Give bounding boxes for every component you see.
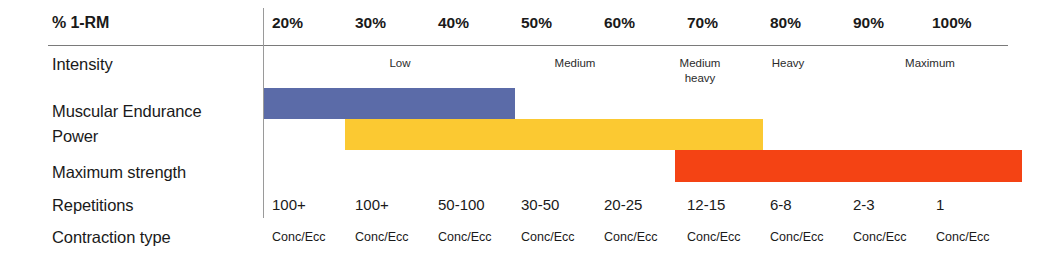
contraction-30: Conc/Ecc	[355, 230, 409, 244]
reps-60: 20-25	[604, 196, 642, 213]
intensity-medium: Medium	[525, 56, 625, 71]
reps-30: 100+	[355, 196, 389, 213]
header-row-label: % 1-RM	[52, 14, 109, 32]
bar-power	[345, 119, 763, 150]
contraction-40: Conc/Ecc	[438, 230, 492, 244]
row-label-muscular-endurance: Muscular Endurance	[52, 102, 202, 121]
tick-70: 70%	[687, 14, 718, 32]
reps-50: 30-50	[521, 196, 559, 213]
tick-90: 90%	[853, 14, 884, 32]
contraction-80: Conc/Ecc	[770, 230, 824, 244]
reps-80: 6-8	[770, 196, 792, 213]
tick-40: 40%	[438, 14, 469, 32]
contraction-100: Conc/Ecc	[936, 230, 990, 244]
row-label-power: Power	[52, 127, 98, 146]
contraction-60: Conc/Ecc	[604, 230, 658, 244]
intensity-heavy: Heavy	[748, 56, 828, 71]
training-intensity-chart: % 1-RM 20% 30% 40% 50% 60% 70% 80% 90% 1…	[0, 0, 1048, 263]
row-label-repetitions: Repetitions	[52, 196, 133, 215]
bar-maximum-strength	[675, 150, 1022, 182]
tick-30: 30%	[355, 14, 386, 32]
reps-70: 12-15	[687, 196, 725, 213]
reps-100: 1	[936, 196, 944, 213]
header-divider	[48, 45, 1008, 46]
reps-40: 50-100	[438, 196, 485, 213]
contraction-50: Conc/Ecc	[521, 230, 575, 244]
contraction-20: Conc/Ecc	[272, 230, 326, 244]
row-label-contraction-type: Contraction type	[52, 228, 171, 247]
tick-80: 80%	[770, 14, 801, 32]
tick-20: 20%	[272, 14, 303, 32]
contraction-70: Conc/Ecc	[687, 230, 741, 244]
intensity-maximum: Maximum	[875, 56, 985, 71]
intensity-medium-heavy: Medium heavy	[655, 56, 745, 85]
bar-muscular-endurance	[264, 88, 515, 119]
row-label-intensity: Intensity	[52, 55, 113, 74]
row-label-maximum-strength: Maximum strength	[52, 163, 186, 182]
contraction-90: Conc/Ecc	[853, 230, 907, 244]
tick-60: 60%	[604, 14, 635, 32]
reps-90: 2-3	[853, 196, 875, 213]
tick-100: 100%	[932, 14, 972, 32]
intensity-low: Low	[355, 56, 445, 71]
reps-20: 100+	[272, 196, 306, 213]
tick-50: 50%	[521, 14, 552, 32]
